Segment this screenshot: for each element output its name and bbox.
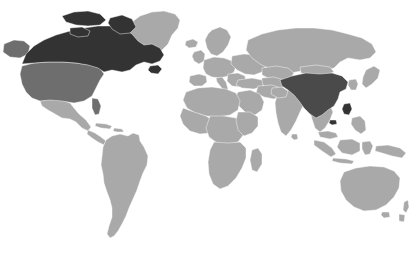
region-iberia[interactable] (189, 74, 207, 86)
world-map-svg (0, 0, 409, 257)
world-map-container (0, 0, 409, 257)
region-new-zealand-south[interactable] (399, 214, 405, 222)
